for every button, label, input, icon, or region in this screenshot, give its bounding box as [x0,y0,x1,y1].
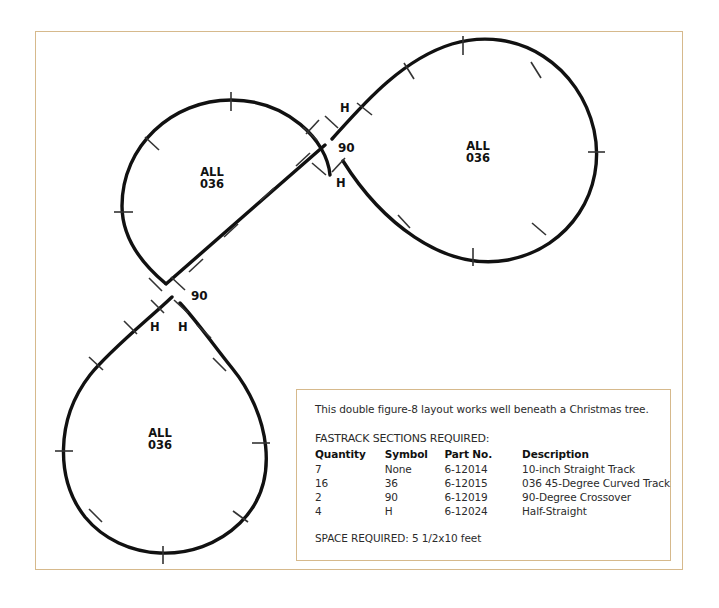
table-row: 4 H 6-12024 Half-Straight [315,504,670,518]
half-straight-label-upper-bottom: H [336,176,346,190]
cell-quantity: 4 [315,504,385,518]
loop-label-lower-left: ALL 036 [148,427,172,451]
cell-symbol: 36 [385,476,445,490]
cell-description: 10-inch Straight Track [522,462,670,476]
space-required-text: SPACE REQUIRED: 5 1/2x10 feet [315,532,481,544]
cell-part-no: 6-12015 [445,476,523,490]
half-straight-label-upper-top: H [340,101,350,115]
cell-symbol: 90 [385,490,445,504]
legend-intro-text: This double figure-8 layout works well b… [315,403,649,415]
cell-quantity: 7 [315,462,385,476]
loop-label-line2: 036 [148,439,172,451]
loop-label-upper-left: ALL 036 [200,166,224,190]
half-straight-label-lower-right: H [178,320,188,334]
loop-label-line2: 036 [200,178,224,190]
table-row: 2 90 6-12019 90-Degree Crossover [315,490,670,504]
table-row: 7 None 6-12014 10-inch Straight Track [315,462,670,476]
legend-heading: FASTRACK SECTIONS REQUIRED: [315,432,489,445]
table-row: 16 36 6-12015 036 45-Degree Curved Track [315,476,670,490]
layout-diagram-page: ALL 036 ALL 036 ALL 036 90 90 H H H H Th… [0,0,719,608]
cell-part-no: 6-12024 [445,504,523,518]
cell-description: 90-Degree Crossover [522,490,670,504]
cell-symbol: H [385,504,445,518]
table-header-row: Quantity Symbol Part No. Description [315,448,670,462]
crossover-label-lower: 90 [191,289,208,303]
cell-quantity: 16 [315,476,385,490]
half-straight-label-lower-left: H [150,320,160,334]
cell-quantity: 2 [315,490,385,504]
loop-label-upper-right: ALL 036 [466,140,490,164]
loop-label-line2: 036 [466,152,490,164]
cell-description: 036 45-Degree Curved Track [522,476,670,490]
parts-legend-panel: This double figure-8 layout works well b… [296,389,671,561]
column-header-symbol: Symbol [385,448,445,462]
column-header-description: Description [522,448,670,462]
cell-symbol: None [385,462,445,476]
fastrack-parts-table: Quantity Symbol Part No. Description 7 N… [315,448,670,518]
crossover-label-upper: 90 [338,141,355,155]
column-header-part-no: Part No. [445,448,523,462]
cell-description: Half-Straight [522,504,670,518]
cell-part-no: 6-12014 [445,462,523,476]
column-header-quantity: Quantity [315,448,385,462]
cell-part-no: 6-12019 [445,490,523,504]
